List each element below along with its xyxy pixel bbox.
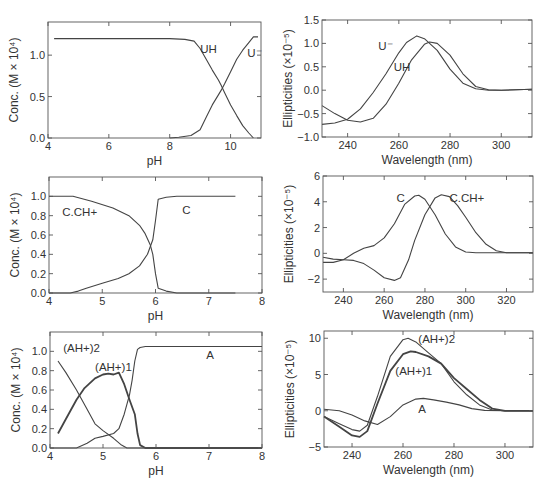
series-line-c	[323, 195, 533, 262]
curve-annotation: (AH+)2	[418, 333, 455, 345]
curve-annotation: (AH+)2	[63, 342, 100, 354]
x-tick-label: 4	[47, 450, 53, 462]
y-axis-label: Conc. (M × 10⁴)	[8, 193, 22, 278]
figure-six-panel-chart: 468100.00.51.0pHConc. (M × 10⁴)UHU⁻ 2402…	[0, 0, 546, 489]
x-tick-label: 7	[206, 295, 212, 307]
curve-annotation: C.CH+	[449, 192, 484, 204]
y-tick-label: 0.4	[32, 403, 47, 415]
y-tick-label: 0	[314, 247, 320, 259]
x-tick-label: 240	[334, 294, 352, 306]
y-tick-label: 0.8	[31, 210, 46, 222]
x-axis-label: Wavelength (nm)	[383, 463, 474, 477]
y-tick-label: 0.5	[304, 61, 319, 73]
y-tick-label: 0.0	[304, 84, 319, 96]
series-line--ah-2	[58, 361, 262, 448]
x-tick-label: 300	[492, 139, 510, 151]
y-tick-label: 6	[314, 170, 320, 182]
x-tick-label: 8	[167, 140, 173, 152]
series-line--ah-1	[58, 373, 262, 448]
x-tick-label: 10	[224, 140, 236, 152]
series-line-c-ch-	[323, 195, 533, 281]
y-tick-label: 0.8	[32, 365, 47, 377]
y-tick-label: 1.0	[30, 49, 45, 61]
y-tick-label: 1.5	[304, 14, 319, 26]
x-tick-label: 280	[441, 139, 459, 151]
x-tick-label: 260	[390, 139, 408, 151]
x-tick-label: 5	[100, 450, 106, 462]
y-tick-label: 0.0	[32, 442, 47, 454]
x-tick-label: 6	[106, 140, 112, 152]
plot-frame	[322, 20, 532, 137]
x-tick-label: 6	[152, 295, 158, 307]
x-axis-label: Wavelength (nm)	[383, 308, 474, 322]
x-tick-label: 6	[153, 450, 159, 462]
y-tick-label: 1.0	[304, 37, 319, 49]
y-tick-label: −2	[307, 273, 320, 285]
y-tick-label: 0.2	[31, 268, 46, 280]
y-tick-label: −5	[308, 441, 321, 453]
curve-annotation: U⁻	[378, 40, 392, 52]
series-line-uh	[322, 42, 532, 122]
y-axis-label: Ellipticities (×10⁻⁵)	[281, 29, 295, 128]
curve-annotation: C.CH+	[62, 206, 97, 218]
panel-ph-c: 456780.00.20.40.60.81.0pHConc. (M × 10⁴)…	[8, 177, 265, 323]
y-tick-label: 1.0	[31, 190, 46, 202]
x-tick-label: 300	[457, 294, 475, 306]
x-tick-label: 4	[45, 140, 51, 152]
y-tick-label: 0	[315, 405, 321, 417]
y-tick-label: 0.0	[31, 287, 46, 299]
series-line-u-	[322, 36, 532, 125]
x-tick-label: 8	[259, 295, 265, 307]
x-tick-label: 7	[206, 450, 212, 462]
x-tick-label: 300	[496, 449, 514, 461]
x-axis-label: pH	[147, 154, 162, 168]
series-line-uh	[54, 39, 253, 138]
series-line-a	[50, 347, 262, 449]
y-tick-label: 2	[314, 222, 320, 234]
y-tick-label: 0.0	[30, 132, 45, 144]
x-tick-label: 240	[338, 139, 356, 151]
x-axis-label: Wavelength (nm)	[382, 153, 473, 167]
x-tick-label: 260	[375, 294, 393, 306]
x-tick-label: 280	[416, 294, 434, 306]
y-tick-label: −0.5	[297, 108, 319, 120]
curve-annotation: A	[206, 349, 214, 361]
curve-annotation: C	[396, 192, 404, 204]
plot-frame	[48, 22, 261, 138]
y-tick-label: 0.5	[30, 91, 45, 103]
y-tick-label: 0.6	[31, 229, 46, 241]
panel-cd-c: 240260280300320−20246Wavelength (nm)Elli…	[282, 170, 533, 322]
x-tick-label: 4	[46, 295, 52, 307]
panel-ph-ah: 456780.00.20.40.60.81.0pHConc. (M × 10⁴)…	[9, 332, 265, 478]
x-tick-label: 5	[99, 295, 105, 307]
panel-ph-uh: 468100.00.51.0pHConc. (M × 10⁴)UHU⁻	[7, 22, 262, 168]
x-tick-label: 260	[394, 449, 412, 461]
curve-annotation: UH	[200, 43, 217, 55]
curve-annotation: U⁻	[247, 47, 261, 59]
plot-frame	[323, 176, 533, 292]
y-axis-label: Conc. (M × 10⁴)	[7, 38, 21, 123]
x-axis-label: pH	[148, 464, 163, 478]
curve-annotation: UH	[394, 61, 411, 73]
x-tick-label: 8	[259, 450, 265, 462]
y-axis-label: Ellipticities (×10⁻⁵)	[283, 340, 297, 439]
y-tick-label: 1.0	[32, 345, 47, 357]
y-tick-label: 5	[315, 369, 321, 381]
y-tick-label: 4	[314, 196, 320, 208]
y-tick-label: 10	[309, 332, 321, 344]
curve-annotation: C	[182, 204, 190, 216]
x-tick-label: 320	[497, 294, 515, 306]
x-tick-label: 240	[343, 449, 361, 461]
y-axis-label: Conc. (M × 10⁴)	[9, 348, 23, 433]
series-line-a	[324, 398, 533, 424]
panel-cd-uh: 240260280300−1.0−0.50.00.51.01.5Waveleng…	[281, 14, 532, 167]
y-tick-label: −1.0	[297, 131, 319, 143]
y-tick-label: 0.6	[32, 384, 47, 396]
curve-annotation: (AH+)1	[395, 365, 432, 377]
y-axis-label: Ellipticities (×10⁻⁵)	[282, 185, 296, 284]
curve-annotation: (AH+)1	[95, 361, 132, 373]
plot-frame	[324, 331, 533, 447]
y-tick-label: 0.2	[32, 423, 47, 435]
x-axis-label: pH	[148, 309, 163, 323]
panel-cd-ah: 240260280300−50510Wavelength (nm)Ellipti…	[283, 331, 533, 477]
